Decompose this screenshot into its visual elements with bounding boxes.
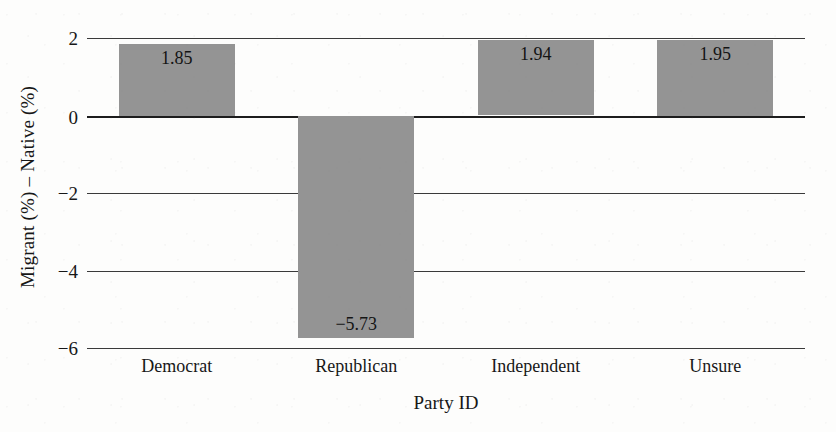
gridline: −2 — [87, 193, 805, 194]
x-category-label: Independent — [446, 356, 626, 377]
y-tick-label: −2 — [58, 183, 78, 205]
bar-value-label: 1.85 — [119, 48, 235, 69]
bar-value-label: 1.94 — [478, 44, 594, 65]
bar-value-label: 1.95 — [657, 44, 773, 65]
x-axis-title: Party ID — [87, 392, 805, 414]
y-axis-title: Migrant (%) – Native (%) — [17, 17, 39, 357]
y-tick-label: −4 — [58, 261, 78, 283]
x-category-label: Democrat — [87, 356, 267, 377]
bar-chart-figure: Migrant (%) – Native (%) 20−2−4−61.85−5.… — [0, 0, 836, 432]
y-tick-label: 2 — [69, 28, 79, 50]
zero-line: 0 — [87, 116, 805, 118]
bar: 1.94 — [478, 40, 594, 115]
gridline: −4 — [87, 271, 805, 272]
gridline: 2 — [87, 38, 805, 39]
bar-value-label: −5.73 — [298, 314, 414, 335]
bar: 1.95 — [657, 40, 773, 116]
y-tick-label: 0 — [69, 107, 79, 129]
bar: 1.85 — [119, 44, 235, 116]
gridline: −6 — [87, 348, 805, 349]
bar: −5.73 — [298, 116, 414, 338]
y-tick-label: −6 — [58, 338, 78, 360]
x-category-label: Republican — [267, 356, 447, 377]
plot-area: 20−2−4−61.85−5.731.941.95 — [87, 38, 805, 348]
x-category-label: Unsure — [626, 356, 806, 377]
